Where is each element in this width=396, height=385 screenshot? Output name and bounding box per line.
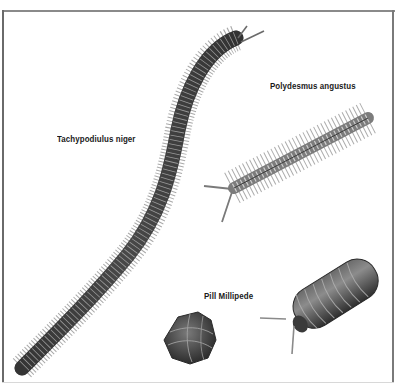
illustration-canvas: Tachypodiulus niger Polydesmus angustus … xyxy=(0,0,396,385)
label-polydesmus-angustus: Polydesmus angustus xyxy=(270,81,356,91)
label-pill-millipede: Pill Millipede xyxy=(204,291,253,301)
pill-antenna-left xyxy=(260,318,286,319)
label-tachypodiulus-niger: Tachypodiulus niger xyxy=(57,134,136,144)
tachypodiulus-niger-figure xyxy=(22,26,264,368)
millipede-illustrations xyxy=(0,0,396,385)
pill-antenna-down xyxy=(292,326,294,354)
pill-millipede-rolled-figure xyxy=(164,312,216,364)
pill-millipede-extended-figure xyxy=(280,251,386,339)
polydesmus-angustus-figure xyxy=(204,118,368,222)
